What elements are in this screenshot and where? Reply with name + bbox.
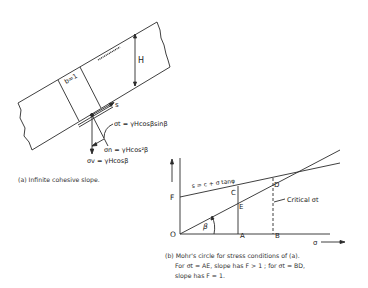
slope-bottom-surface (32, 67, 170, 150)
right-break-edge (157, 22, 170, 67)
slice-left-side (58, 80, 79, 121)
tangential-stress-label: σt = γHcosβsinβ (114, 120, 168, 128)
slope-labels: b=1 H s σt = γHcosβsinβ σn = γHcos²β σv … (63, 56, 168, 165)
ground-hatch (98, 47, 120, 60)
infinite-slope-figure (18, 22, 170, 154)
critical-leader (274, 199, 285, 202)
element-base-line-2 (79, 107, 113, 127)
element-base-line (78, 105, 112, 125)
caption-b-line1: (b) Mohr's circle for stress conditions … (165, 251, 300, 260)
label-A: A (240, 232, 245, 240)
shear-label: s (115, 101, 119, 109)
label-beta: β (203, 222, 208, 231)
sigma-axis-label: σ (313, 239, 318, 247)
slice-right-side (80, 67, 101, 108)
label-D: D (274, 181, 279, 189)
label-F: F (170, 193, 174, 202)
sigma-t-leader (104, 124, 113, 138)
normal-stress-label: σn = γHcos²β (104, 146, 148, 154)
width-label: b=1 (63, 72, 79, 86)
strength-envelope-label: s = c + σ tanφ (191, 177, 235, 190)
diagram-canvas: b=1 H s σt = γHcosβsinβ σn = γHcos²β σv … (0, 0, 368, 288)
vertical-stress-label: σv = γHcosβ (87, 157, 128, 165)
height-label: H (138, 56, 144, 65)
label-C: C (231, 189, 236, 197)
caption-b-line3: slope has F = 1. (175, 271, 225, 280)
arrowhead-icon (90, 149, 93, 154)
left-break-edge (18, 103, 32, 150)
slope-top-surface (18, 22, 157, 103)
arrowhead-icon (340, 241, 345, 244)
arrowhead-icon (171, 159, 174, 164)
caption-a: (a) Infinite cohesive slope. (18, 175, 100, 184)
mohr-labels: O F A B C E D β s = c + σ tanφ Critical … (170, 177, 319, 247)
mohr-diagram (171, 150, 346, 244)
arrowhead-icon (92, 143, 97, 147)
label-B: B (275, 232, 280, 240)
critical-label: Critical σt (287, 196, 319, 204)
label-O: O (170, 230, 176, 239)
label-E: E (239, 203, 243, 211)
arrowhead-icon (134, 82, 137, 86)
caption-b-line2: For σt = AE, slope has F > 1 ; for σt = … (175, 261, 305, 270)
